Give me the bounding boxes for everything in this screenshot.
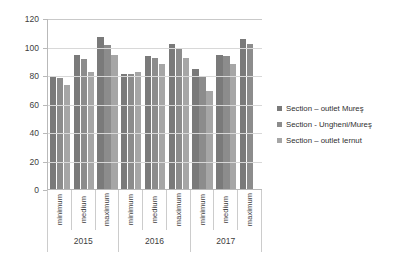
bar[interactable] [176,48,182,189]
x-axis-category-label: maximum [102,193,111,226]
x-axis-category-label: medium [221,196,230,223]
legend-label: Section – outlet Mureş [286,104,364,113]
y-axis-tick-label: 100 [25,43,39,52]
x-axis-group-label: 2015 [47,230,119,252]
x-axis-category-cell: minimum [191,190,215,230]
x-axis-category-cell: medium [72,190,96,230]
x-axis-category-label: minimum [126,194,135,225]
bar[interactable] [192,69,198,189]
bar[interactable] [88,72,94,189]
y-axis-tick-label: 20 [30,157,39,166]
bar[interactable] [81,59,87,189]
bar[interactable] [247,44,253,189]
legend-label: Section – outlet Iernut [286,136,362,145]
x-axis-category-label: minimum [198,194,207,225]
y-axis-tick-label: 80 [30,72,39,81]
gridline [48,76,262,77]
bar[interactable] [121,74,127,189]
x-axis-category-cell: minimum [119,190,143,230]
plot-area [47,19,262,190]
bar[interactable] [135,72,141,189]
gridline [48,133,262,134]
legend-swatch-icon [277,138,282,143]
x-axis-category-cell: medium [214,190,238,230]
x-axis-category-label: medium [79,196,88,223]
bar-chart: 020406080100120 minimummediummaximummini… [0,0,398,264]
chart-legend: Section – outlet MureşSection - Ungheni/… [277,104,398,145]
bar[interactable] [159,64,165,189]
gridline [48,48,262,49]
x-axis-category-label: maximum [245,193,254,226]
x-axis-category-cell: maximum [96,190,120,230]
y-axis-tick-label: 0 [34,186,39,195]
legend-item[interactable]: Section - Ungheni/Mureş [277,120,398,129]
legend-item[interactable]: Section – outlet Iernut [277,136,398,145]
gridline [48,19,262,20]
x-axis-category-label: medium [150,196,159,223]
x-axis-category-cell: maximum [167,190,191,230]
bar[interactable] [152,58,158,189]
legend-swatch-icon [277,122,282,127]
legend-item[interactable]: Section – outlet Mureş [277,104,398,113]
x-axis-category-labels: minimummediummaximumminimummediummaximum… [47,190,262,230]
legend-swatch-icon [277,106,282,111]
bar[interactable] [240,39,246,189]
x-axis-category-label: maximum [174,193,183,226]
gridline [48,162,262,163]
bar[interactable] [169,44,175,189]
x-axis-group-labels: 201520162017 [47,230,262,252]
gridline [48,105,262,106]
x-axis-category-cell: minimum [47,190,72,230]
x-axis-group-label: 2016 [119,230,190,252]
bar[interactable] [230,64,236,189]
bar[interactable] [104,45,110,189]
y-axis: 020406080100120 [0,0,47,190]
bar[interactable] [183,58,189,189]
bar[interactable] [64,85,70,189]
bar[interactable] [97,37,103,189]
y-axis-tick-label: 40 [30,129,39,138]
x-axis-category-cell: maximum [238,190,262,230]
legend-label: Section - Ungheni/Mureş [286,120,372,129]
x-axis-group-label: 2017 [191,230,262,252]
x-axis-category-label: minimum [55,194,64,225]
bar[interactable] [128,74,134,189]
x-axis-category-cell: medium [143,190,167,230]
y-axis-tick-label: 120 [25,15,39,24]
y-axis-tick-label: 60 [30,100,39,109]
